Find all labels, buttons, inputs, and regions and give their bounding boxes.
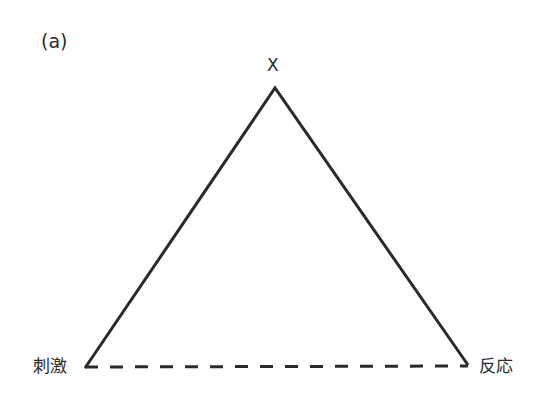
solid-edges <box>85 88 468 368</box>
apex-label: X <box>267 57 279 74</box>
diagram-canvas: (a) X 刺激 反応 <box>0 0 549 405</box>
response-label: 反応 <box>479 358 513 375</box>
dashed-edge <box>85 366 468 367</box>
stimulus-label: 刺激 <box>33 358 67 375</box>
panel-label: (a) <box>41 32 67 51</box>
